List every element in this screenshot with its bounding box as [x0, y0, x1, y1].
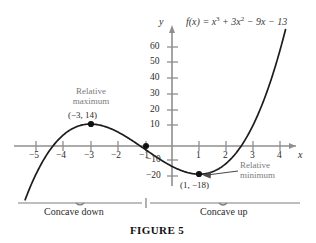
equation-tail: − 9x − 13: [244, 16, 287, 27]
x-tick-label-neg2: −2: [111, 150, 121, 161]
y-tick-label-60: 60: [150, 41, 160, 52]
x-tick-label-neg3: −3: [84, 150, 94, 161]
relative-minimum-annotation: Relative minimum: [240, 160, 302, 180]
x-tick-label-neg5: −5: [29, 150, 39, 161]
relative-maximum-coordinates: (−3, 14): [68, 110, 97, 120]
concave-down-label: Concave down: [44, 206, 104, 217]
relative-minimum-line1: Relative: [240, 160, 302, 170]
relative-minimum-coordinates: (1, −18): [180, 180, 209, 190]
x-tick-label-neg4: −4: [56, 150, 66, 161]
figure-caption: FIGURE 5: [130, 224, 184, 236]
y-tick-label-neg10: −10: [146, 154, 161, 165]
x-tick-label-1: 1: [196, 150, 201, 161]
relative-maximum-point: [88, 121, 94, 127]
concave-up-label: Concave up: [200, 206, 248, 217]
y-tick-label-50: 50: [150, 56, 160, 67]
y-tick-label-30: 30: [150, 88, 160, 99]
relative-minimum-point: [196, 171, 202, 177]
x-tick-label-2: 2: [223, 150, 228, 161]
x-axis-label: x: [298, 149, 302, 160]
equation-mid: + 3x: [220, 16, 241, 27]
inflection-point: [143, 143, 149, 149]
x-axis-arrowhead: [289, 143, 296, 149]
relative-maximum-line2: maximum: [60, 96, 122, 106]
y-tick-label-neg20: −20: [146, 170, 161, 181]
y-axis-label: y: [159, 16, 163, 27]
y-axis-arrowhead: [169, 25, 175, 33]
relative-minimum-line2: minimum: [240, 170, 302, 180]
figure-container: f(x) = x3 + 3x2 − 9x − 13 y x −5 −4 −3 −…: [0, 0, 316, 243]
relative-maximum-annotation: Relative maximum: [60, 86, 122, 106]
function-equation: f(x) = x3 + 3x2 − 9x − 13: [186, 16, 287, 28]
y-tick-label-20: 20: [150, 104, 160, 115]
y-tick-label-40: 40: [150, 72, 160, 83]
relative-maximum-line1: Relative: [60, 86, 122, 96]
equation-fx: f(x) = x: [186, 16, 216, 27]
y-tick-label-10: 10: [150, 119, 160, 130]
